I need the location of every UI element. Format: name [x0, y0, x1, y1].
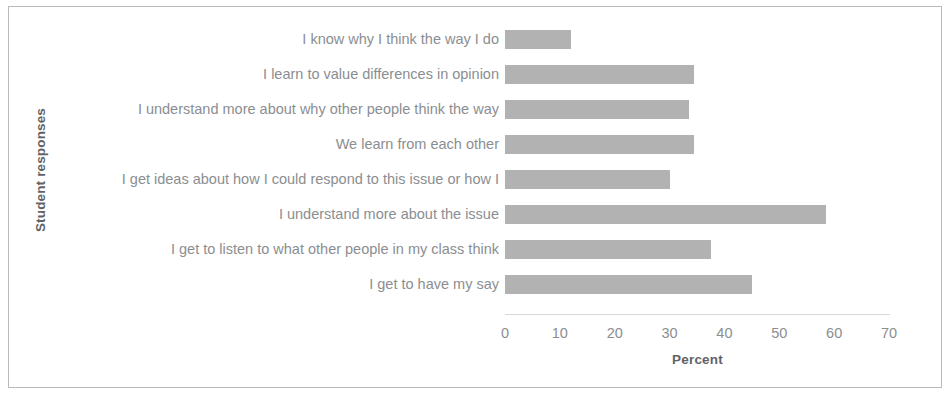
category-label: I know why I think the way I do: [302, 30, 499, 49]
category-label: I get to listen to what other people in …: [171, 240, 499, 259]
x-axis-tick-labels: 010203040506070: [0, 322, 951, 344]
bar-row: I learn to value differences in opinion: [505, 57, 889, 92]
bar-row: I get to have my say: [505, 267, 889, 302]
category-label: I get to have my say: [369, 275, 499, 294]
bar: [505, 100, 689, 119]
bar: [505, 205, 826, 224]
bar: [505, 135, 694, 154]
bar-row: I get ideas about how I could respond to…: [505, 162, 889, 197]
x-tick-label: 70: [869, 322, 909, 344]
chart-figure: Student responses I know why I think the…: [0, 0, 951, 397]
bar: [505, 275, 752, 294]
category-label: I get ideas about how I could respond to…: [122, 170, 499, 189]
plot-area: I know why I think the way I doI learn t…: [505, 22, 889, 322]
bar: [505, 65, 694, 84]
bar-row: I know why I think the way I do: [505, 22, 889, 57]
bar: [505, 170, 670, 189]
bar: [505, 30, 571, 49]
x-tick-label: 60: [814, 322, 854, 344]
y-axis-title: Student responses: [30, 40, 52, 300]
x-tick-label: 0: [485, 322, 525, 344]
x-tick-label: 50: [759, 322, 799, 344]
category-label: I learn to value differences in opinion: [263, 65, 499, 84]
bar: [505, 240, 711, 259]
bar-row: I understand more about why other people…: [505, 92, 889, 127]
x-axis-title: Percent: [505, 352, 890, 367]
x-tick-label: 10: [540, 322, 580, 344]
category-label: I understand more about the issue: [279, 205, 499, 224]
category-label: I understand more about why other people…: [138, 100, 499, 119]
category-label: We learn from each other: [336, 135, 499, 154]
x-tick-label: 40: [704, 322, 744, 344]
bar-row: We learn from each other: [505, 127, 889, 162]
bar-row: I understand more about the issue: [505, 197, 889, 232]
x-tick-label: 30: [650, 322, 690, 344]
bar-row: I get to listen to what other people in …: [505, 232, 889, 267]
x-tick-label: 20: [595, 322, 635, 344]
x-axis-line: [505, 314, 890, 315]
